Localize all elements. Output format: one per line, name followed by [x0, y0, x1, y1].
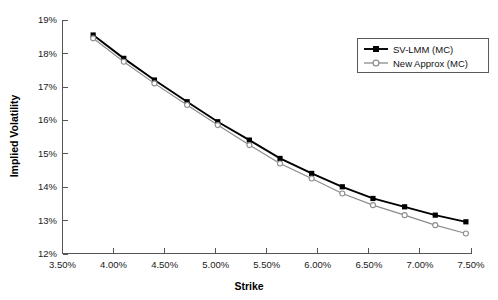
- x-tick-label: 7.50%: [458, 259, 485, 270]
- legend-marker-open-circle-icon: [373, 60, 379, 66]
- y-tick-label: 17%: [38, 81, 58, 92]
- data-point-marker: [215, 123, 220, 128]
- data-point-marker: [277, 156, 282, 161]
- data-point-marker: [247, 137, 252, 142]
- y-tick-label: 15%: [38, 148, 58, 159]
- data-point-marker: [463, 219, 468, 224]
- legend-label-new-approx: New Approx (MC): [393, 58, 468, 69]
- data-point-marker: [370, 203, 375, 208]
- chart-svg: 12%13%14%15%16%17%18%19% 3.50%4.00%4.50%…: [0, 0, 498, 300]
- x-tick-label: 4.00%: [100, 259, 127, 270]
- data-point-marker: [309, 176, 314, 181]
- y-axis-tick-labels: 12%13%14%15%16%17%18%19%: [38, 14, 58, 259]
- data-point-marker: [152, 81, 157, 86]
- data-point-marker: [185, 103, 190, 108]
- x-axis-title: Strike: [234, 280, 263, 292]
- legend-marker-filled-square-icon: [373, 46, 379, 52]
- data-point-marker: [278, 161, 283, 166]
- data-point-marker: [402, 204, 407, 209]
- y-tick-label: 19%: [38, 14, 58, 25]
- x-tick-label: 5.00%: [202, 259, 229, 270]
- data-point-marker: [463, 231, 468, 236]
- data-point-marker: [309, 171, 314, 176]
- data-point-marker: [340, 184, 345, 189]
- data-point-marker: [91, 36, 96, 41]
- y-tick-label: 16%: [38, 114, 58, 125]
- y-tick-label: 12%: [38, 248, 58, 259]
- legend: SV-LMM (MC) New Approx (MC): [358, 39, 489, 73]
- data-point-marker: [247, 143, 252, 148]
- data-point-marker: [402, 213, 407, 218]
- data-point-marker: [340, 191, 345, 196]
- x-tick-label: 3.50%: [49, 259, 76, 270]
- x-tick-label: 6.00%: [304, 259, 331, 270]
- x-tick-label: 7.00%: [406, 259, 433, 270]
- y-tick-label: 18%: [38, 48, 58, 59]
- data-point-marker: [433, 223, 438, 228]
- data-point-marker: [433, 213, 438, 218]
- x-axis-tick-labels: 3.50%4.00%4.50%5.00%5.50%6.00%6.50%7.00%…: [49, 259, 485, 270]
- x-tick-label: 5.50%: [253, 259, 280, 270]
- x-tick-label: 4.50%: [151, 259, 178, 270]
- data-point-marker: [121, 59, 126, 64]
- y-axis-title: Implied Volatility: [8, 95, 20, 178]
- implied-volatility-chart: 12%13%14%15%16%17%18%19% 3.50%4.00%4.50%…: [0, 0, 498, 300]
- x-tick-label: 6.50%: [355, 259, 382, 270]
- legend-label-sv-lmm: SV-LMM (MC): [393, 44, 453, 55]
- y-tick-label: 14%: [38, 181, 58, 192]
- data-point-marker: [370, 196, 375, 201]
- y-tick-label: 13%: [38, 215, 58, 226]
